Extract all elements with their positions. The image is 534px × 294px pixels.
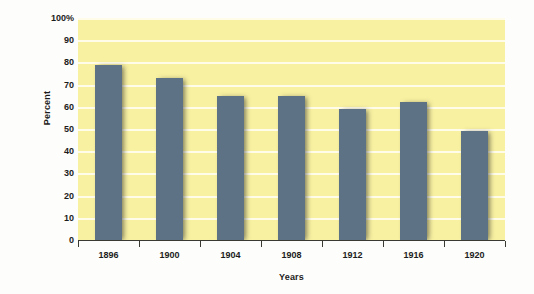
bar — [339, 109, 366, 240]
y-axis-tick-label: 30 — [34, 168, 74, 178]
y-axis-tick-label: 60 — [34, 102, 74, 112]
plot-area — [78, 18, 505, 240]
bar — [400, 102, 427, 240]
x-axis-tick-labels: 1896190019041908191219161920 — [78, 250, 505, 266]
y-axis-tick-label: 0 — [34, 235, 74, 245]
y-axis-tick-labels: 0102030405060708090100% — [34, 18, 74, 240]
bar — [461, 131, 488, 240]
bar — [217, 96, 244, 240]
x-axis-title: Years — [78, 272, 505, 282]
x-axis-tick-mark — [139, 241, 140, 247]
x-axis-tick-label: 1908 — [262, 250, 322, 260]
x-axis-line — [78, 240, 505, 241]
y-axis-tick-label: 50 — [34, 124, 74, 134]
y-axis-tick-label: 20 — [34, 191, 74, 201]
y-axis-tick-label: 10 — [34, 213, 74, 223]
bar — [156, 78, 183, 240]
x-axis-tick-label: 1896 — [79, 250, 139, 260]
y-axis-tick-label: 40 — [34, 146, 74, 156]
bar-chart-figure: Percent 0102030405060708090100% 18961900… — [0, 0, 534, 294]
bar — [95, 65, 122, 240]
bars-group — [78, 18, 505, 240]
x-axis-tick-mark — [78, 241, 79, 247]
x-axis-tick-label: 1912 — [323, 250, 383, 260]
x-axis-tick-mark — [505, 241, 506, 247]
x-axis-tick-label: 1904 — [201, 250, 261, 260]
y-axis-tick-label: 70 — [34, 80, 74, 90]
x-axis-tick-label: 1920 — [445, 250, 505, 260]
x-axis-tick-mark — [322, 241, 323, 247]
x-axis-tick-label: 1916 — [384, 250, 444, 260]
x-axis-tick-mark — [261, 241, 262, 247]
bar — [278, 96, 305, 240]
y-axis-tick-label: 100% — [34, 13, 74, 23]
y-axis-tick-label: 90 — [34, 35, 74, 45]
x-axis-tick-mark — [383, 241, 384, 247]
x-axis-tick-mark — [444, 241, 445, 247]
y-axis-tick-label: 80 — [34, 57, 74, 67]
x-axis-tick-mark — [200, 241, 201, 247]
x-axis-tick-label: 1900 — [140, 250, 200, 260]
